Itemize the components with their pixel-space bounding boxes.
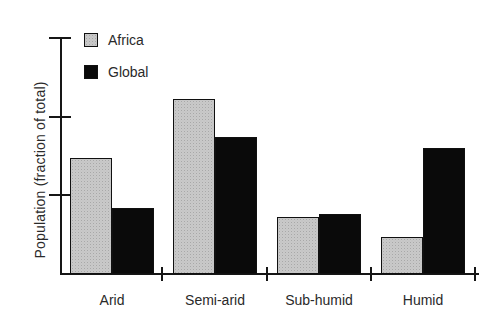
- y-axis-line: [60, 37, 62, 274]
- bar-africa-sub-humid: [277, 217, 319, 274]
- x-axis-tick: [161, 267, 163, 281]
- x-axis-tick: [370, 267, 372, 281]
- bar-global-humid: [423, 148, 465, 274]
- y-axis-tick: [49, 37, 71, 39]
- x-axis-tick: [474, 267, 476, 281]
- legend-label-global: Global: [108, 64, 148, 80]
- y-axis-tick: [49, 116, 71, 118]
- x-label-humid: Humid: [368, 292, 478, 308]
- x-label-sub-humid: Sub-humid: [264, 292, 374, 308]
- y-axis-tick: [49, 194, 71, 196]
- bar-africa-arid: [70, 158, 112, 274]
- population-bar-chart: Population (fraction of total) AridSemi-…: [0, 0, 494, 336]
- y-axis-title: Population (fraction of total): [32, 81, 48, 258]
- bar-global-sub-humid: [319, 214, 361, 274]
- x-label-semi-arid: Semi-arid: [160, 292, 270, 308]
- legend-label-africa: Africa: [108, 32, 144, 48]
- bar-africa-semi-arid: [173, 99, 215, 274]
- bar-global-arid: [112, 208, 154, 274]
- x-label-arid: Arid: [57, 292, 167, 308]
- x-axis-tick: [266, 267, 268, 281]
- bar-global-semi-arid: [215, 137, 257, 274]
- legend-swatch-global: [84, 65, 98, 79]
- legend-swatch-africa: [84, 33, 98, 47]
- bar-africa-humid: [381, 237, 423, 274]
